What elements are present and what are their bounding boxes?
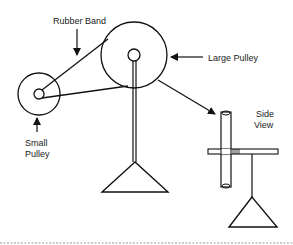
small-pulley-label-line2: Pulley [25,149,50,159]
small-pulley [18,73,60,115]
small-pulley-label-line1: Small [25,138,48,148]
rubber-band [42,39,128,98]
large-pulley-label: Large Pulley [208,53,259,63]
side-view-label-line1: Side [256,109,274,119]
side-view-arrow [158,80,215,114]
large-pulley [101,22,167,88]
pulley-diagram: Rubber Band Large Pulley Small Pulley Si… [0,0,293,245]
rubber-band-label: Rubber Band [53,16,106,26]
side-view-label-line2: View [254,120,274,130]
